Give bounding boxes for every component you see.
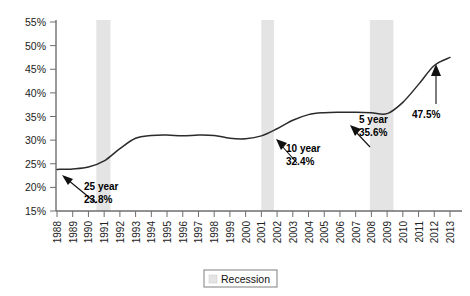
- chart-container: 15%20%25%30%35%40%45%50%55% 198819891990…: [0, 0, 470, 296]
- x-tick-label: 2007: [351, 221, 362, 244]
- x-tick-label: 2002: [272, 221, 283, 244]
- annot-10-year-title: 10 year: [286, 143, 321, 154]
- y-tick-label: 20%: [25, 181, 46, 193]
- x-tick-label: 1994: [146, 221, 157, 244]
- x-tick-label: 1988: [52, 221, 63, 244]
- x-tick-label: 2001: [256, 221, 267, 244]
- x-tick-label: 1992: [115, 221, 126, 244]
- x-axis-ticks: 1988198919901991199219931994199519961997…: [52, 211, 456, 243]
- x-tick-label: 1989: [68, 221, 79, 244]
- annotation-10-year: 10 year 32.4%: [276, 139, 321, 167]
- x-tick-label: 1996: [178, 221, 189, 244]
- annotation-1-year: 47.5%: [412, 64, 441, 120]
- recession-band-2: [261, 20, 274, 211]
- x-tick-label: 1990: [83, 221, 94, 244]
- y-tick-label: 45%: [25, 63, 46, 75]
- legend: Recession: [204, 270, 277, 287]
- y-tick-label: 15%: [25, 205, 46, 217]
- annot-10-year-value: 32.4%: [286, 156, 314, 167]
- annot-1-year-value: 47.5%: [412, 109, 440, 120]
- y-tick-label: 55%: [25, 16, 46, 28]
- x-tick-label: 2008: [366, 221, 377, 244]
- recession-bands-group: [96, 20, 393, 211]
- x-tick-label: 2013: [445, 221, 456, 244]
- annot-25-year-value: 23.8%: [84, 194, 112, 205]
- x-tick-label: 2010: [398, 221, 409, 244]
- x-tick-label: 2009: [382, 221, 393, 244]
- annot-25-year-title: 25 year: [84, 181, 119, 192]
- legend-label-recession: Recession: [221, 273, 270, 285]
- x-tick-label: 2006: [335, 221, 346, 244]
- legend-swatch-recession: [209, 275, 217, 283]
- y-axis-ticks: 15%20%25%30%35%40%45%50%55%: [25, 16, 56, 217]
- y-tick-label: 25%: [25, 158, 46, 170]
- annot-25-year-arrowhead: [62, 175, 73, 185]
- x-tick-label: 1995: [162, 221, 173, 244]
- x-tick-label: 1997: [193, 221, 204, 244]
- y-tick-label: 30%: [25, 134, 46, 146]
- x-tick-label: 2004: [304, 221, 315, 244]
- y-tick-label: 50%: [25, 40, 46, 52]
- x-tick-label: 1991: [99, 221, 110, 244]
- x-tick-label: 1993: [131, 221, 142, 244]
- annot-5-year-value: 35.6%: [359, 127, 387, 138]
- x-tick-label: 2003: [288, 221, 299, 244]
- annot-5-year-title: 5 year: [359, 114, 388, 125]
- line-chart: 15%20%25%30%35%40%45%50%55% 198819891990…: [0, 0, 470, 296]
- x-tick-label: 2012: [429, 221, 440, 244]
- y-tick-label: 40%: [25, 87, 46, 99]
- x-tick-label: 1998: [209, 221, 220, 244]
- x-tick-label: 1999: [225, 221, 236, 244]
- y-tick-label: 35%: [25, 111, 46, 123]
- x-tick-label: 2000: [241, 221, 252, 244]
- annot-1-year-arrowhead: [431, 64, 441, 76]
- x-tick-label: 2011: [414, 221, 425, 243]
- x-tick-label: 2005: [319, 221, 330, 244]
